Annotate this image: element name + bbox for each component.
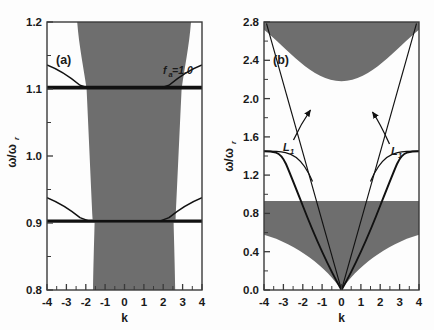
chart-panel-a: 0.8 0.9 1.0 1.1 1.2 -4 -3 -2 -1 0 1 2 3 … bbox=[0, 0, 217, 330]
x-axis-title-b: k bbox=[338, 311, 345, 325]
y-tick-label-a-2: 1.0 bbox=[26, 150, 42, 162]
x-tick-label-b-0: -4 bbox=[259, 296, 270, 308]
y-axis-title-text-a: ω/ω bbox=[5, 144, 19, 168]
y-tick-label-a-4: 1.2 bbox=[26, 16, 42, 28]
chart-panel-b: L 1 L 1 bbox=[217, 0, 434, 330]
y-axis-title-sub-a: r bbox=[12, 136, 21, 140]
panel-tag-a: (a) bbox=[56, 53, 71, 67]
y-tick-label-a-0: 0.8 bbox=[26, 284, 43, 296]
x-tick-label-a-2: -2 bbox=[81, 296, 91, 308]
panel-a-svg: 0.8 0.9 1.0 1.1 1.2 -4 -3 -2 -1 0 1 2 3 … bbox=[0, 0, 217, 330]
x-tick-label-a-5: 1 bbox=[141, 296, 148, 308]
y-tick-label-a-1: 0.9 bbox=[26, 217, 42, 229]
y-tick-label-b-5: 2.0 bbox=[243, 93, 259, 105]
x-tick-label-b-6: 2 bbox=[377, 296, 383, 308]
x-tick-label-a-7: 3 bbox=[179, 296, 185, 308]
y-tick-label-b-3: 1.2 bbox=[243, 169, 259, 181]
annotation-label-left-b: L bbox=[283, 141, 290, 153]
y-tick-label-b-6: 2.4 bbox=[243, 54, 260, 66]
x-tick-label-a-6: 2 bbox=[160, 296, 166, 308]
x-tick-label-a-3: -1 bbox=[100, 296, 111, 308]
y-axis-title-sub-b: r bbox=[229, 140, 238, 144]
annotation-label-right-b: L bbox=[391, 145, 398, 157]
x-tick-label-b-5: 1 bbox=[358, 296, 365, 308]
x-tick-label-b-4: 0 bbox=[338, 296, 344, 308]
y-tick-label-b-1: 0.4 bbox=[243, 246, 260, 258]
x-axis-title-a: k bbox=[121, 311, 128, 325]
x-tick-label-a-1: -3 bbox=[61, 296, 71, 308]
x-tick-label-b-8: 4 bbox=[416, 296, 423, 308]
y-tick-label-b-7: 2.8 bbox=[243, 16, 260, 28]
x-tick-label-a-0: -4 bbox=[42, 296, 53, 308]
y-tick-label-a-3: 1.1 bbox=[26, 83, 43, 95]
band-middle-a bbox=[87, 89, 182, 220]
figure-container: 0.8 0.9 1.0 1.1 1.2 -4 -3 -2 -1 0 1 2 3 … bbox=[0, 0, 434, 330]
band-lower-a bbox=[93, 223, 175, 290]
y-axis-title-b: ω/ω r bbox=[222, 140, 238, 172]
panel-tag-b: (b) bbox=[273, 53, 289, 67]
y-tick-label-b-0: 0.0 bbox=[243, 284, 259, 296]
y-axis-title-a: ω/ω r bbox=[5, 136, 21, 168]
x-tick-label-a-4: 0 bbox=[121, 296, 127, 308]
x-tick-label-b-7: 3 bbox=[396, 296, 402, 308]
panel-b-svg: L 1 L 1 bbox=[217, 0, 434, 330]
band-group-a bbox=[77, 22, 191, 290]
y-tick-label-b-4: 1.6 bbox=[243, 131, 259, 143]
x-tick-label-b-3: -1 bbox=[317, 296, 328, 308]
x-tick-label-a-8: 4 bbox=[199, 296, 206, 308]
band-upper-a bbox=[77, 22, 191, 86]
annotation-sub-left-b: 1 bbox=[290, 147, 294, 156]
x-tick-label-b-2: -2 bbox=[298, 296, 308, 308]
x-tick-label-b-1: -3 bbox=[278, 296, 288, 308]
annotation-fa-suffix: =1.0 bbox=[172, 64, 193, 76]
y-axis-title-text-b: ω/ω bbox=[222, 148, 236, 172]
annotation-sub-right-b: 1 bbox=[398, 151, 402, 160]
y-tick-label-b-2: 0.8 bbox=[243, 207, 260, 219]
